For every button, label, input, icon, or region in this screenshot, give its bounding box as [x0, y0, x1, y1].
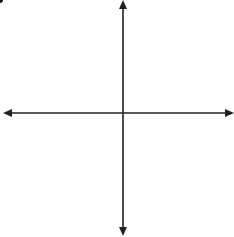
- y-axis-down-arrow-icon: [119, 227, 127, 236]
- axes: [3, 0, 234, 236]
- points: [0, 0, 3, 3]
- y-axis-up-arrow-icon: [119, 0, 127, 9]
- coordinate-plane: [0, 0, 234, 237]
- point-b: [0, 0, 3, 3]
- point-b-dot: [0, 0, 3, 3]
- x-axis-right-arrow-icon: [225, 109, 234, 117]
- x-axis-left-arrow-icon: [3, 109, 12, 117]
